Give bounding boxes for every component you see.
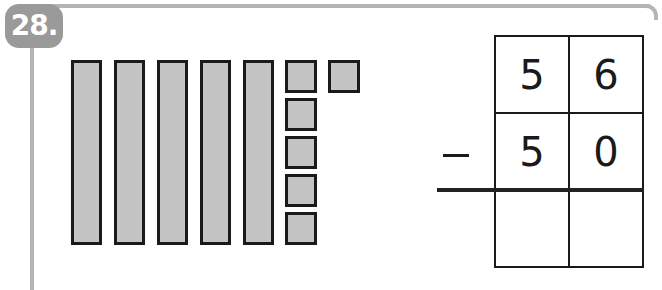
ones-unit bbox=[285, 98, 317, 131]
ones-unit bbox=[285, 136, 317, 169]
answer-line bbox=[437, 188, 644, 192]
grid-row-divider bbox=[494, 112, 644, 114]
answer-ones-cell[interactable] bbox=[569, 204, 643, 266]
problem-number-badge: 28. bbox=[5, 4, 63, 48]
answer-tens-cell[interactable] bbox=[495, 204, 569, 266]
frame-corner bbox=[646, 4, 658, 20]
subtrahend-ones: 0 bbox=[569, 127, 643, 177]
tens-rod bbox=[157, 60, 188, 245]
ones-unit bbox=[285, 212, 317, 245]
subtrahend-tens: 5 bbox=[495, 127, 569, 177]
frame-left-line bbox=[30, 30, 34, 290]
tens-rod bbox=[114, 60, 145, 245]
frame-top-line bbox=[40, 4, 652, 8]
ones-unit bbox=[285, 60, 317, 93]
ones-unit bbox=[285, 174, 317, 207]
minus-sign bbox=[443, 154, 469, 157]
ones-unit bbox=[328, 60, 360, 93]
tens-rod bbox=[243, 60, 274, 245]
minuend-tens: 5 bbox=[495, 50, 569, 100]
minuend-ones: 6 bbox=[569, 50, 643, 100]
tens-rod bbox=[200, 60, 231, 245]
tens-rod bbox=[71, 60, 102, 245]
